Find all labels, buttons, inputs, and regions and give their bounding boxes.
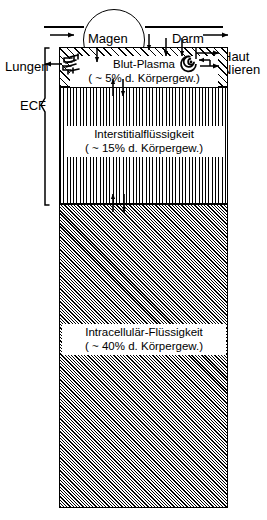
plasma-caption-name: Blut-Plasma bbox=[74, 57, 214, 71]
intracellular-caption: Intracellulär-Flüssigkeit ( ~ 40% d. Kör… bbox=[62, 324, 226, 355]
interstitial-caption: Interstitialflüssigkeit ( ~ 15% d. Körpe… bbox=[64, 126, 224, 157]
lungs-label: Lungen bbox=[5, 60, 48, 73]
stomach-label: Magen bbox=[88, 32, 128, 45]
interstitial-caption-name: Interstitialflüssigkeit bbox=[68, 127, 220, 141]
intestine-label: Darm bbox=[172, 32, 204, 45]
intracellular-compartment bbox=[59, 204, 228, 508]
fluid-compartments-diagram: Magen Darm Lungen Haut Nieren ECF Blut-P… bbox=[0, 0, 267, 520]
intracellular-caption-name: Intracellulär-Flüssigkeit bbox=[66, 325, 222, 339]
interstitial-caption-amount: ( ~ 15% d. Körpergew.) bbox=[68, 141, 220, 155]
top-guide-line-left bbox=[44, 26, 84, 28]
plasma-caption: Blut-Plasma ( ~ 5% d. Körpergew.) bbox=[70, 56, 218, 87]
plasma-caption-amount: ( ~ 5% d. Körpergew.) bbox=[74, 71, 214, 85]
intracellular-caption-amount: ( ~ 40% d. Körpergew.) bbox=[66, 339, 222, 353]
ecf-label: ECF bbox=[20, 99, 46, 112]
top-guide-line-right bbox=[145, 26, 223, 28]
